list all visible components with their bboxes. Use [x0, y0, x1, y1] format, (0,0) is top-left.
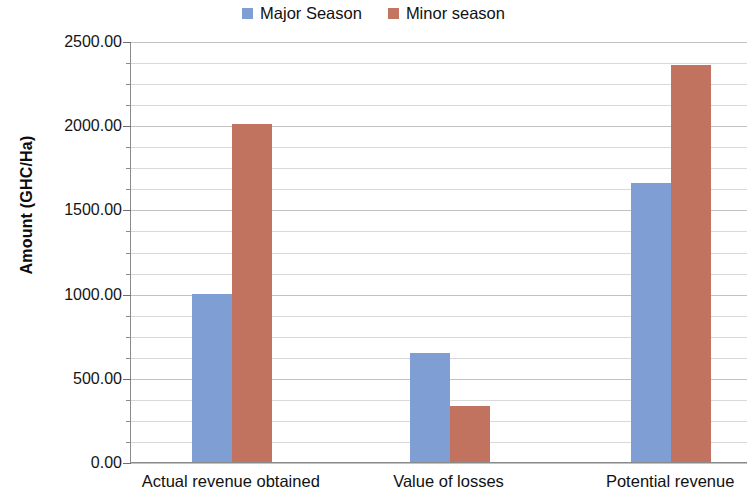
tickmark-major — [123, 379, 131, 380]
bar-chart: Major Season Minor season Amount (GHC/Ha… — [0, 0, 747, 504]
y-axis-tick-label: 500.00 — [18, 371, 122, 387]
bar-major-season — [631, 183, 671, 462]
y-axis-tick-label: 1000.00 — [18, 287, 122, 303]
y-axis-tick-label: 0.00 — [18, 455, 122, 471]
legend-item-major-season: Major Season — [242, 5, 362, 22]
gridline-major — [131, 463, 747, 464]
x-axis-tick-label: Value of losses — [393, 472, 504, 490]
x-axis-tick-label: Potential revenue — [606, 472, 734, 490]
tickmark-major — [123, 295, 131, 296]
bars-layer — [131, 42, 747, 462]
tickmark-major — [123, 42, 131, 43]
tickmark-major — [123, 463, 131, 464]
legend-label-minor-season: Minor season — [406, 5, 505, 22]
bar-minor-season — [450, 406, 490, 462]
bar-major-season — [410, 353, 450, 462]
y-axis-tick-label: 1500.00 — [18, 202, 122, 218]
legend-swatch-icon-minor-season — [388, 8, 399, 19]
legend-label-major-season: Major Season — [260, 5, 362, 22]
tickmark-major — [123, 126, 131, 127]
y-axis-tick-label: 2500.00 — [18, 34, 122, 50]
tickmark-major — [123, 210, 131, 211]
y-axis-tick-labels: 0.00500.001000.001500.002000.002500.00 — [18, 0, 122, 504]
legend-swatch-icon-major-season — [242, 8, 253, 19]
y-axis-tick-label: 2000.00 — [18, 118, 122, 134]
bar-minor-season — [232, 124, 272, 462]
plot-area — [130, 42, 747, 463]
bar-minor-season — [671, 65, 711, 462]
bar-major-season — [192, 294, 232, 462]
legend-item-minor-season: Minor season — [388, 5, 505, 22]
x-axis-tick-labels: Actual revenue obtainedValue of lossesPo… — [130, 472, 747, 502]
x-axis-tick-label: Actual revenue obtained — [142, 472, 320, 490]
